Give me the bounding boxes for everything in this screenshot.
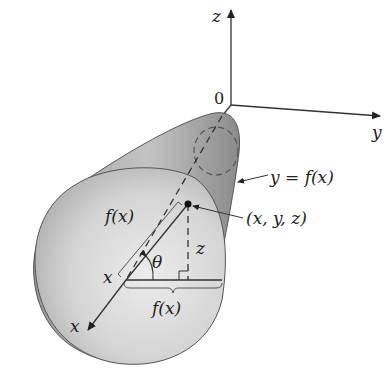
radius-base-label: f(x) (150, 298, 181, 318)
point-xyz (185, 201, 192, 208)
angle-label: θ (152, 252, 162, 272)
x-position-label: x (103, 267, 113, 287)
cross-section-disk (35, 168, 225, 365)
curve-label: y = f(x) (269, 167, 334, 187)
curve-leader (238, 175, 268, 182)
height-label: z (195, 238, 206, 258)
y-axis-label: y (371, 122, 382, 142)
origin-label: 0 (214, 89, 224, 108)
point-label: (x, y, z) (246, 208, 307, 228)
solid-of-revolution-diagram: z y 0 x y = f(x) (x, y, z) f(x) z θ x f(… (0, 0, 392, 380)
z-axis-label: z (211, 6, 222, 26)
y-axis (231, 105, 380, 116)
x-axis-label: x (70, 316, 80, 336)
radius-slant-label: f(x) (103, 206, 134, 226)
